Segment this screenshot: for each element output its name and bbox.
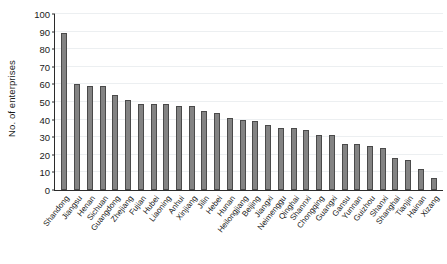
- x-label-slot: Fujian: [134, 192, 147, 262]
- bar-slot: [58, 14, 71, 190]
- bar-slot: [224, 14, 237, 190]
- bar-slot: [376, 14, 389, 190]
- bar-slot: [364, 14, 377, 190]
- bar: [100, 86, 106, 190]
- x-label-slot: Zhejiang: [122, 192, 135, 262]
- bar: [163, 104, 169, 190]
- bar-slot: [96, 14, 109, 190]
- y-axis-title-text: No. of enterprises: [6, 60, 17, 137]
- bar: [151, 104, 157, 190]
- x-axis-line: [54, 190, 443, 191]
- bar-slot: [160, 14, 173, 190]
- bar: [329, 135, 335, 190]
- bar-slot: [402, 14, 415, 190]
- bar: [380, 148, 386, 190]
- bar: [240, 120, 246, 190]
- x-label-slot: Anhui: [173, 192, 186, 262]
- bar-slot: [71, 14, 84, 190]
- bar: [189, 106, 195, 190]
- x-label-slot: Xizang: [427, 192, 440, 262]
- bar-slot: [313, 14, 326, 190]
- bar: [303, 130, 309, 190]
- bar-slot: [338, 14, 351, 190]
- x-label-slot: Jiangsu: [71, 192, 84, 262]
- bar-slot: [300, 14, 313, 190]
- bar: [87, 86, 93, 190]
- bar-slot: [83, 14, 96, 190]
- bar: [405, 160, 411, 190]
- bar-slot: [236, 14, 249, 190]
- bar: [316, 135, 322, 190]
- bar-series: [55, 14, 443, 190]
- bar-slot: [211, 14, 224, 190]
- bar-slot: [198, 14, 211, 190]
- plot-area: [55, 14, 443, 190]
- x-label-slot: Chongqing: [313, 192, 326, 262]
- bar: [342, 144, 348, 190]
- bar-chart: No. of enterprises 010203040506070809010…: [0, 0, 447, 264]
- bar: [252, 121, 258, 190]
- bar-slot: [122, 14, 135, 190]
- bar: [291, 128, 297, 190]
- bar: [214, 113, 220, 190]
- bar: [74, 84, 80, 190]
- bar: [61, 33, 67, 190]
- x-label-slot: Neimenggu: [274, 192, 287, 262]
- bar-slot: [287, 14, 300, 190]
- bar-slot: [389, 14, 402, 190]
- bar-slot: [249, 14, 262, 190]
- bar: [278, 128, 284, 190]
- x-label-slot: Guizhou: [364, 192, 377, 262]
- bar-slot: [274, 14, 287, 190]
- bar-slot: [415, 14, 428, 190]
- bar: [354, 144, 360, 190]
- bar: [431, 178, 437, 190]
- bar: [392, 158, 398, 190]
- bar: [227, 118, 233, 190]
- bar-slot: [325, 14, 338, 190]
- bar: [138, 104, 144, 190]
- x-label-slot: Guangxi: [325, 192, 338, 262]
- bar-slot: [262, 14, 275, 190]
- bar-slot: [351, 14, 364, 190]
- x-label-slot: Hainan: [415, 192, 428, 262]
- bar-slot: [134, 14, 147, 190]
- bar: [367, 146, 373, 190]
- bar-slot: [427, 14, 440, 190]
- bar: [418, 169, 424, 190]
- bar-slot: [185, 14, 198, 190]
- bar: [176, 106, 182, 190]
- x-axis-labels: ShandongJiangsuHenanSichuanGuangdongZhej…: [55, 192, 443, 262]
- bar-slot: [147, 14, 160, 190]
- bar: [265, 125, 271, 190]
- bar-slot: [173, 14, 186, 190]
- bar-slot: [109, 14, 122, 190]
- bar: [112, 95, 118, 190]
- y-axis-title: No. of enterprises: [2, 0, 20, 196]
- bar: [201, 111, 207, 190]
- bar: [125, 100, 131, 190]
